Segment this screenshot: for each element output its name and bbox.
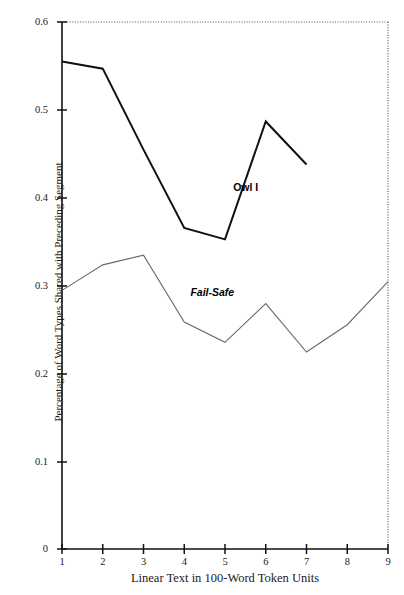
- x-tick-label-4: 4: [174, 557, 194, 568]
- series-line-fail-safe: [62, 255, 388, 352]
- y-axis-title: Percentage of Word Types Shared with Pre…: [52, 142, 64, 442]
- x-tick-label-8: 8: [337, 557, 357, 568]
- y-tick-label-0.1: 0.1: [20, 457, 48, 468]
- series-line-owl-i: [62, 62, 307, 240]
- x-tick-label-7: 7: [297, 557, 317, 568]
- series-label-fail-safe: Fail-Safe: [190, 287, 234, 298]
- y-tick-label-0.5: 0.5: [20, 105, 48, 116]
- x-tick-label-6: 6: [256, 557, 276, 568]
- series-label-owl-i: Owl I: [233, 182, 258, 193]
- x-tick-label-1: 1: [52, 557, 72, 568]
- y-tick-label-0.2: 0.2: [20, 369, 48, 380]
- x-tick-label-5: 5: [215, 557, 235, 568]
- y-tick-label-0.4: 0.4: [20, 193, 48, 204]
- x-tick-label-9: 9: [378, 557, 398, 568]
- chart-figure: 0.6 0.5 0.4 0.3 0.2 0.1 0 1 2 3 4 5 6 7 …: [0, 0, 404, 595]
- x-tick-label-2: 2: [93, 557, 113, 568]
- y-tick-label-0.3: 0.3: [20, 281, 48, 292]
- x-tick-label-3: 3: [134, 557, 154, 568]
- series-paths: [62, 62, 388, 352]
- y-tick-label-0: 0: [20, 544, 48, 555]
- y-tick-label-0.6: 0.6: [20, 17, 48, 28]
- x-axis-title: Linear Text in 100-Word Token Units: [62, 571, 388, 586]
